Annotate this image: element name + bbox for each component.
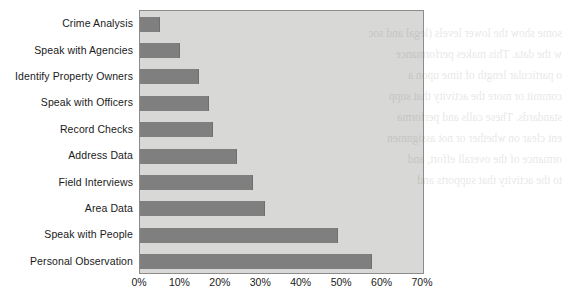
category-label: Speak with People [0, 221, 133, 247]
bar [140, 122, 213, 137]
category-label: Identify Property Owners [0, 63, 133, 89]
plot-area: some show the lower levels (legal and so… [139, 10, 424, 274]
bar-slot [140, 249, 372, 275]
bar [140, 69, 199, 84]
bar [140, 254, 372, 269]
bar-slot [140, 196, 265, 222]
category-label: Address Data [0, 142, 133, 168]
bar [140, 228, 338, 243]
bar-slot [140, 222, 338, 248]
category-label: Speak with Agencies [0, 36, 133, 62]
bar [140, 17, 160, 32]
bar [140, 149, 237, 164]
category-label: Record Checks [0, 116, 133, 142]
bar [140, 175, 253, 190]
category-label: Speak with Officers [0, 89, 133, 115]
bar-slot [140, 11, 160, 37]
x-tick-label: 60% [371, 276, 392, 288]
x-tick-label: 20% [209, 276, 230, 288]
category-label: Personal Observation [0, 248, 133, 274]
bar [140, 43, 180, 58]
bar [140, 201, 265, 216]
x-tick-label: 30% [250, 276, 271, 288]
bars-layer [140, 11, 423, 273]
bar-slot [140, 117, 213, 143]
x-tick-label: 50% [331, 276, 352, 288]
bar-slot [140, 143, 237, 169]
bar [140, 96, 209, 111]
bar-slot [140, 169, 253, 195]
x-tick-label: 70% [411, 276, 432, 288]
x-axis-tick-labels: 0% 10% 20% 30% 40% 50% 60% 70% [139, 276, 424, 294]
bar-slot [140, 90, 209, 116]
bar-slot [140, 37, 180, 63]
x-tick-label: 10% [169, 276, 190, 288]
x-tick-label: 40% [290, 276, 311, 288]
category-axis-labels: Crime Analysis Speak with Agencies Ident… [0, 10, 133, 274]
bar-slot [140, 64, 199, 90]
category-label: Crime Analysis [0, 10, 133, 36]
x-tick-label: 0% [131, 276, 146, 288]
category-label: Area Data [0, 195, 133, 221]
category-label: Field Interviews [0, 168, 133, 194]
